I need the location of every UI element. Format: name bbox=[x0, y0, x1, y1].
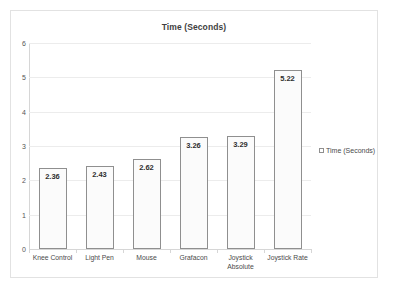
bar[interactable]: 3.29 bbox=[227, 136, 255, 249]
y-axis-tick-labels: 0123456 bbox=[11, 43, 26, 249]
x-axis-tick bbox=[217, 249, 218, 253]
x-axis-tick bbox=[123, 249, 124, 253]
chart-legend[interactable]: Time (Seconds) bbox=[319, 147, 375, 154]
legend-item-label: Time (Seconds) bbox=[326, 147, 375, 154]
x-axis-tick bbox=[311, 249, 312, 253]
y-axis-tick-label: 6 bbox=[12, 40, 26, 47]
y-axis-tick-label: 4 bbox=[12, 108, 26, 115]
x-axis-tick-label: Light Pen bbox=[76, 254, 123, 263]
bar-group: 2.36 bbox=[29, 43, 76, 249]
bar-value-label: 2.62 bbox=[139, 163, 154, 172]
bar[interactable]: 2.62 bbox=[133, 159, 161, 249]
bar-group: 2.43 bbox=[76, 43, 123, 249]
x-axis-tick-label: Grafacon bbox=[170, 254, 217, 263]
bar-value-label: 2.36 bbox=[45, 172, 60, 181]
bar[interactable]: 5.22 bbox=[274, 70, 302, 249]
y-axis-tick-label: 0 bbox=[12, 246, 26, 253]
x-axis-tick bbox=[264, 249, 265, 253]
x-axis-tick-labels: Knee ControlLight PenMouseGrafaconJoysti… bbox=[29, 254, 311, 282]
x-axis-tick bbox=[29, 249, 30, 253]
bar-value-label: 2.43 bbox=[92, 170, 107, 179]
y-axis-tick-label: 5 bbox=[12, 74, 26, 81]
plot-area: 2.362.432.623.263.295.22 bbox=[29, 43, 311, 249]
chart-frame: Time (Seconds) 0123456 2.362.432.623.263… bbox=[10, 10, 378, 278]
y-axis-tick-label: 1 bbox=[12, 211, 26, 218]
y-axis-tick-label: 2 bbox=[12, 177, 26, 184]
x-axis-tick-label: Joystick Rate bbox=[264, 254, 311, 263]
x-axis-tick-label: JoystickAbsolute bbox=[217, 254, 264, 271]
bar-group: 3.29 bbox=[217, 43, 264, 249]
bar-group: 2.62 bbox=[123, 43, 170, 249]
bar[interactable]: 2.43 bbox=[86, 166, 114, 249]
bar-group: 5.22 bbox=[264, 43, 311, 249]
chart-title: Time (Seconds) bbox=[11, 22, 377, 32]
x-axis-tick bbox=[76, 249, 77, 253]
x-axis-tick bbox=[170, 249, 171, 253]
bar[interactable]: 3.26 bbox=[180, 137, 208, 249]
bar-value-label: 3.29 bbox=[233, 140, 248, 149]
x-axis-tick-label: Mouse bbox=[123, 254, 170, 263]
bar-group: 3.26 bbox=[170, 43, 217, 249]
bar-value-label: 3.26 bbox=[186, 141, 201, 150]
bar-value-label: 5.22 bbox=[280, 74, 295, 83]
legend-square-marker bbox=[319, 148, 324, 153]
x-axis-tick-label: Knee Control bbox=[29, 254, 76, 263]
bars-layer: 2.362.432.623.263.295.22 bbox=[29, 43, 311, 249]
y-axis-tick-label: 3 bbox=[12, 143, 26, 150]
bar[interactable]: 2.36 bbox=[39, 168, 67, 249]
